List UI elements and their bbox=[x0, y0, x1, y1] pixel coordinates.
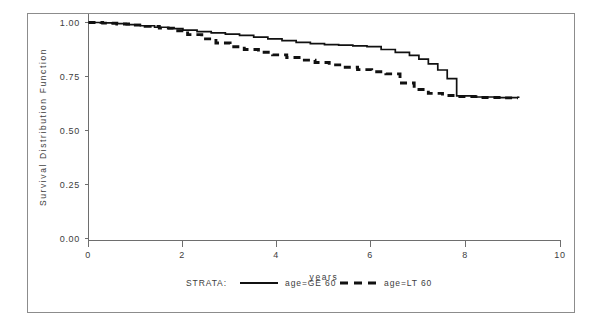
x-tick-label-0: 0 bbox=[85, 250, 91, 260]
y-tick-label-0.00: 0.00 bbox=[60, 234, 80, 244]
legend-label-age-ge-60: age=GE 60 bbox=[285, 278, 336, 288]
x-tick-label-2: 2 bbox=[179, 250, 185, 260]
y-tick-label-0.75: 0.75 bbox=[60, 72, 80, 82]
x-tick-label-8: 8 bbox=[462, 250, 468, 260]
y-tick-label-0.50: 0.50 bbox=[60, 126, 80, 136]
y-axis-ticks bbox=[85, 23, 89, 239]
legend-title: STRATA: bbox=[186, 278, 227, 288]
x-tick-label-10: 10 bbox=[554, 250, 565, 260]
x-tick-label-4: 4 bbox=[273, 250, 279, 260]
y-tick-label-1.00: 1.00 bbox=[60, 18, 80, 28]
plot-canvas: 1.00 0.75 0.50 0.25 0.00 0 2 4 6 8 10 Su… bbox=[0, 0, 599, 329]
legend: STRATA: age=GE 60 age=LT 60 bbox=[186, 278, 432, 288]
legend-label-age-lt-60: age=LT 60 bbox=[384, 278, 432, 288]
survival-chart-figure: 1.00 0.75 0.50 0.25 0.00 0 2 4 6 8 10 Su… bbox=[0, 0, 599, 329]
x-tick-label-6: 6 bbox=[367, 250, 373, 260]
x-axis-ticks bbox=[89, 241, 561, 247]
survival-curve-age-lt-60 bbox=[89, 23, 519, 99]
y-axis-title: Survival Distribution Function bbox=[38, 48, 48, 206]
y-tick-label-0.25: 0.25 bbox=[60, 180, 80, 190]
